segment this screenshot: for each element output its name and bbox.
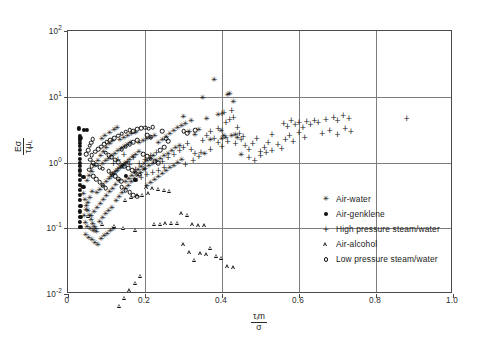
data-point-triangle	[123, 296, 127, 300]
legend-label: High pressure steam/water	[336, 224, 440, 234]
y-den-mu: μ	[23, 143, 33, 148]
x-axis-tick	[68, 294, 69, 298]
chart-legend: ✳Air-waterAir-genklene+High pressure ste…	[316, 191, 440, 267]
data-point-open-circle	[193, 128, 198, 133]
data-point-open-circle	[100, 167, 105, 172]
data-point-open-circle	[84, 152, 89, 157]
data-point-triangle	[87, 214, 91, 218]
data-point-asterisk: ✳	[188, 117, 194, 125]
data-point-filled-circle	[85, 128, 89, 132]
y-tick-label: 10-1	[46, 221, 62, 233]
data-point-triangle	[112, 224, 116, 228]
y-axis-label: Eσ τiμL	[14, 138, 34, 155]
plot-area: ✳✳✳✳✳✳✳✳✳✳✳✳✳✳✳✳✳✳✳✳✳✳✳✳✳✳✳✳✳✳✳✳✳✳✳✳✳✳✳✳…	[67, 30, 452, 293]
x-tick-label: 0.2	[138, 296, 150, 305]
x-axis-tick	[145, 294, 146, 298]
data-point-plus: +	[190, 156, 197, 164]
gridline-horizontal	[68, 97, 451, 98]
data-point-triangle	[203, 223, 207, 227]
data-point-triangle	[133, 228, 137, 232]
data-point-plus: +	[319, 129, 326, 137]
data-point-plus: +	[232, 139, 239, 147]
data-point-triangle	[133, 281, 137, 285]
data-point-open-circle	[160, 129, 165, 134]
data-point-triangle	[187, 250, 191, 254]
y-tick-label: 102	[49, 24, 62, 36]
plus-icon: +	[316, 224, 336, 234]
data-point-filled-circle	[78, 204, 82, 208]
data-point-plus: +	[240, 132, 247, 140]
data-point-triangle	[176, 221, 180, 225]
legend-item-high-pressure-steam-water[interactable]: +High pressure steam/water	[316, 221, 440, 236]
data-point-open-circle	[135, 138, 140, 143]
data-point-triangle	[232, 265, 236, 269]
y-axis-tick	[64, 163, 68, 164]
asterisk-icon: ✳	[316, 194, 336, 203]
data-point-filled-circle	[78, 168, 82, 172]
filled-circle-icon	[316, 212, 336, 216]
data-point-triangle	[156, 187, 160, 191]
data-point-triangle	[193, 258, 197, 262]
x-axis-tick	[453, 294, 454, 298]
data-point-asterisk: ✳	[203, 115, 209, 123]
data-point-plus: +	[253, 133, 260, 141]
triangle-icon	[316, 242, 336, 246]
data-point-plus: +	[215, 124, 222, 132]
legend-label: Air-water	[336, 194, 371, 204]
data-point-triangle	[170, 221, 174, 225]
data-point-plus: +	[346, 114, 353, 122]
y-tick-label: 100	[49, 156, 62, 168]
x-axis-tick	[299, 294, 300, 298]
x-axis-tick	[376, 294, 377, 298]
data-point-plus: +	[290, 137, 297, 145]
x-den-sigma: σ	[256, 322, 261, 332]
data-point-triangle	[199, 251, 203, 255]
data-point-open-circle	[116, 160, 121, 165]
data-point-open-circle	[185, 131, 190, 136]
y-num-E: E	[13, 146, 23, 152]
gridline-vertical	[222, 31, 223, 292]
data-point-triangle	[153, 222, 157, 226]
data-point-open-circle	[119, 179, 124, 184]
data-point-open-circle	[103, 186, 108, 191]
legend-label: Air-alcohol	[336, 239, 377, 249]
data-point-asterisk: ✳	[114, 124, 120, 132]
data-point-plus: +	[182, 160, 189, 168]
data-point-filled-circle	[78, 152, 82, 156]
data-point-plus: +	[334, 130, 341, 138]
data-point-triangle	[124, 198, 128, 202]
data-point-plus: +	[224, 137, 231, 145]
data-point-open-circle	[137, 173, 142, 178]
data-point-filled-circle	[77, 126, 81, 130]
data-point-triangle	[191, 222, 195, 226]
data-point-open-circle	[90, 164, 95, 169]
data-point-triangle	[145, 185, 149, 189]
data-point-triangle	[162, 188, 166, 192]
legend-item-air-water[interactable]: ✳Air-water	[316, 191, 440, 206]
x-num-m: m	[258, 311, 265, 321]
data-point-asterisk: ✳	[180, 113, 186, 121]
y-den-mu-sub: L	[27, 140, 34, 143]
open-circle-icon	[316, 257, 336, 262]
data-point-plus: +	[207, 145, 214, 153]
y-num-sigma: σ	[13, 141, 23, 146]
legend-item-air-alcohol[interactable]: Air-alcohol	[316, 237, 440, 252]
x-axis-label: τim σ	[251, 312, 267, 332]
data-point-plus: +	[269, 146, 276, 154]
data-point-asterisk: ✳	[211, 76, 217, 84]
scatter-plot-figure: Eσ τiμL τim σ 10210110010-110-200.20.40.…	[0, 0, 486, 347]
y-tick-label: 101	[49, 90, 62, 102]
x-tick-label: 0.8	[369, 296, 381, 305]
data-point-triangle	[139, 274, 143, 278]
y-den-tau-sub: i	[27, 148, 34, 149]
data-point-plus: +	[323, 115, 330, 123]
data-point-triangle	[141, 193, 145, 197]
legend-item-low-pressure-steam-water[interactable]: Low pressure steam/water	[316, 252, 440, 267]
data-point-asterisk: ✳	[200, 94, 206, 102]
x-tick-label: 0.4	[215, 296, 227, 305]
data-point-triangle	[151, 186, 155, 190]
data-point-plus: +	[278, 144, 285, 152]
legend-item-air-genklene[interactable]: Air-genklene	[316, 206, 440, 221]
data-point-open-circle	[156, 161, 161, 166]
x-tick-label: 1.0	[446, 296, 458, 305]
